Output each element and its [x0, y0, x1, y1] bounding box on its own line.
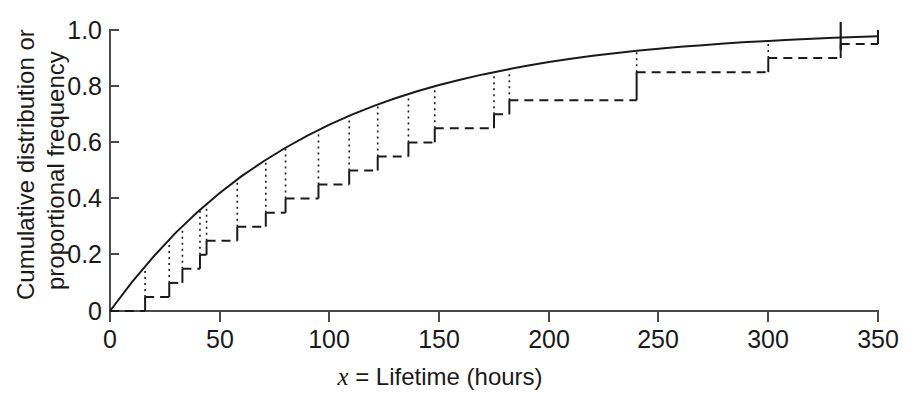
x-tick-label-100: 100 — [308, 325, 350, 353]
y-tick-label-0-8: 0.8 — [67, 72, 102, 100]
x-axis-title-rest: = Lifetime (hours) — [349, 363, 543, 390]
x-tick-label-150: 150 — [418, 325, 460, 353]
y-axis: 1.0 0.8 0.6 0.4 0.2 0 — [67, 16, 119, 325]
x-tick-label-50: 50 — [206, 325, 234, 353]
x-tick-label-0: 0 — [103, 325, 117, 353]
x-tick-label-200: 200 — [528, 325, 570, 353]
y-axis-label-line-2: proportional frequency — [42, 51, 69, 290]
x-axis-title: x = Lifetime (hours) — [336, 363, 542, 390]
x-axis: 0 50 100 150 200 250 300 350 — [103, 311, 899, 353]
y-tick-label-0-4: 0.4 — [67, 184, 102, 212]
y-tick-label-0-2: 0.2 — [67, 240, 102, 268]
ecdf-vs-exponential-chart: Cumulative distribution or proportional … — [0, 0, 916, 393]
x-tick-label-300: 300 — [747, 325, 789, 353]
y-axis-label-line-1: Cumulative distribution or — [12, 29, 39, 300]
y-tick-label-0-6: 0.6 — [67, 128, 102, 156]
figure-container: Cumulative distribution or proportional … — [0, 0, 916, 393]
x-tick-label-250: 250 — [637, 325, 679, 353]
y-tick-label-1-0: 1.0 — [67, 16, 102, 44]
x-axis-title-variable: x — [336, 363, 348, 390]
plot-layer — [110, 22, 878, 311]
y-tick-label-0: 0 — [88, 297, 102, 325]
svg-text:x = Lifetime (hours): x = Lifetime (hours) — [336, 363, 542, 390]
y-axis-label: Cumulative distribution or proportional … — [12, 29, 69, 300]
x-tick-label-350: 350 — [857, 325, 899, 353]
